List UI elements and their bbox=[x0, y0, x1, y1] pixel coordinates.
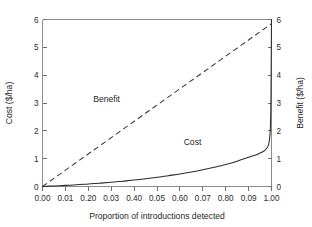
y-right-tick-label: 2 bbox=[277, 127, 282, 136]
y-right-tick-label: 1 bbox=[277, 155, 282, 164]
y-right-tick-label: 5 bbox=[277, 43, 282, 52]
y-left-tick-label: 5 bbox=[34, 43, 39, 52]
y-left-tick-label: 2 bbox=[34, 127, 39, 136]
y-axis-left-title: Cost ($/ha) bbox=[4, 82, 14, 125]
y-right-tick-label: 4 bbox=[277, 71, 282, 80]
x-tick-label: 0.20 bbox=[80, 194, 96, 203]
x-tick-label: 0.40 bbox=[126, 194, 142, 203]
x-tick-label: 0.00 bbox=[35, 194, 51, 203]
x-tick-label: 1.00 bbox=[264, 194, 280, 203]
y-left-tick-label: 1 bbox=[34, 155, 39, 164]
y-left-tick-label: 3 bbox=[34, 99, 39, 108]
y-right-tick-label: 3 bbox=[277, 99, 282, 108]
x-axis-title: Proportion of introductions detected bbox=[89, 211, 225, 221]
x-tick-label: 0.80 bbox=[218, 194, 234, 203]
y-axis-right-title: Benefit ($/ha) bbox=[295, 77, 305, 129]
y-right-tick-label: 6 bbox=[277, 16, 282, 25]
cost-curve-label: Cost bbox=[184, 137, 202, 147]
chart-figure: 0.000.010.200.030.400.050.600.070.800.09… bbox=[0, 0, 312, 227]
x-tick-label: 0.60 bbox=[172, 194, 188, 203]
x-tick-label: 0.03 bbox=[103, 194, 119, 203]
y-left-tick-label: 6 bbox=[34, 16, 39, 25]
y-left-tick-label: 4 bbox=[34, 71, 39, 80]
x-tick-label: 0.07 bbox=[195, 194, 211, 203]
benefit-curve-label: Benefit bbox=[93, 94, 120, 104]
x-tick-label: 0.01 bbox=[57, 194, 73, 203]
x-tick-label: 0.05 bbox=[149, 194, 165, 203]
cost-benefit-chart: 0.000.010.200.030.400.050.600.070.800.09… bbox=[0, 0, 312, 227]
x-tick-label: 0.09 bbox=[241, 194, 257, 203]
y-left-tick-label: 0 bbox=[34, 183, 39, 192]
y-right-tick-label: 0 bbox=[277, 183, 282, 192]
